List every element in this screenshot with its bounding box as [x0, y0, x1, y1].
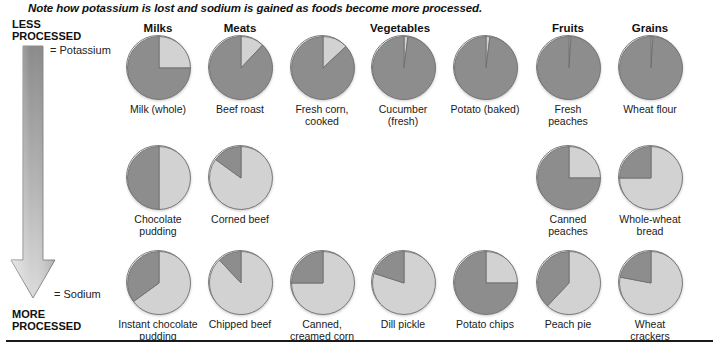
bottom-divider — [6, 340, 713, 342]
pie-chart-fresh-corn-cooked — [290, 35, 354, 99]
slice-potassium — [210, 37, 273, 100]
pie-slices — [619, 251, 683, 315]
slice-potassium — [620, 37, 683, 100]
gradient-arrow-icon — [10, 44, 72, 306]
pie-cell: Wheatcrackers — [596, 250, 704, 342]
pie-label: Wheatcrackers — [596, 319, 704, 342]
slice-potassium — [373, 37, 436, 100]
axis-label-more-processed: MOREPROCESSED — [12, 308, 81, 332]
slice-potassium — [620, 147, 652, 179]
slice-potassium — [455, 37, 518, 100]
pie-slices — [127, 146, 191, 210]
pie-cell: Wheat flour — [596, 35, 704, 116]
pie-slices — [209, 36, 273, 100]
slice-sodium — [486, 252, 518, 284]
pie-slices — [127, 251, 191, 315]
pie-label: Whole-wheatbread — [596, 214, 704, 237]
column-header-milks: Milks — [144, 22, 173, 34]
slice-potassium — [292, 252, 324, 284]
legend-sodium: = Sodium — [54, 288, 101, 300]
slice-potassium — [538, 37, 601, 100]
column-header-meats: Meats — [224, 22, 257, 34]
pie-chart-chipped-beef — [208, 250, 272, 314]
pie-chart-canned-peaches — [536, 145, 600, 209]
pie-chart-canned-creamed-corn — [290, 250, 354, 314]
pie-cell: Corned beef — [186, 145, 294, 226]
pie-chart-corned-beef — [208, 145, 272, 209]
pie-slices — [127, 36, 191, 100]
pie-cell: Whole-wheatbread — [596, 145, 704, 237]
pie-chart-chocolate-pudding — [126, 145, 190, 209]
pie-chart-cucumber-fresh — [371, 35, 435, 99]
pie-slices — [209, 251, 273, 315]
legend-potassium: = Potassium — [50, 44, 111, 56]
pie-chart-whole-wheat-bread — [618, 145, 682, 209]
pie-slices — [372, 251, 436, 315]
axis-label-less-processed: LESSPROCESSED — [12, 18, 81, 42]
slice-potassium — [128, 147, 160, 210]
column-header-vegetables: Vegetables — [370, 22, 430, 34]
pie-chart-wheat-flour — [618, 35, 682, 99]
pie-chart-potato-baked — [453, 35, 517, 99]
pie-slices — [619, 36, 683, 100]
pie-slices — [537, 146, 601, 210]
pie-slices — [291, 36, 355, 100]
pie-chart-milk-whole — [126, 35, 190, 99]
pie-chart-fresh-peaches — [536, 35, 600, 99]
figure-canvas: Note how potassium is lost and sodium is… — [0, 0, 719, 351]
pie-slices — [619, 146, 683, 210]
pie-slices — [291, 251, 355, 315]
pie-chart-wheat-crackers — [618, 250, 682, 314]
pie-chart-beef-roast — [208, 35, 272, 99]
pie-chart-peach-pie — [536, 250, 600, 314]
pie-label: Wheat flour — [596, 104, 704, 116]
slice-potassium — [620, 252, 651, 284]
pie-chart-instant-chocolate-pudding — [126, 250, 190, 314]
column-header-grains: Grains — [632, 22, 668, 34]
pie-slices — [209, 146, 273, 210]
pie-chart-dill-pickle — [371, 250, 435, 314]
pie-slices — [372, 36, 436, 100]
pie-chart-potato-chips — [453, 250, 517, 314]
pie-slices — [454, 251, 518, 315]
column-header-fruits: Fruits — [552, 22, 584, 34]
pie-slices — [537, 36, 601, 100]
pie-label: Corned beef — [186, 214, 294, 226]
figure-caption: Note how potassium is lost and sodium is… — [28, 2, 482, 14]
pie-slices — [454, 36, 518, 100]
pie-slices — [537, 251, 601, 315]
